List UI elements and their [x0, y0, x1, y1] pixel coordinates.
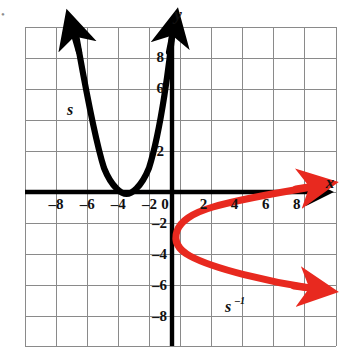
grid-lines	[25, 27, 336, 346]
axes	[25, 30, 316, 346]
y-tick-label-minus-8: –8	[151, 308, 167, 324]
y-tick-label-minus-2: –2	[151, 215, 167, 231]
y-tick-label-minus-6: –6	[151, 277, 168, 293]
y-tick-label-6: 6	[157, 80, 165, 96]
coordinate-plane-svg: x y –8 –6 –4 –2 2 4 6 8 0 8 6 2 –2 –4 –6…	[0, 0, 352, 359]
curve-s-inverse-arrow-lower	[294, 286, 313, 289]
curve-label-s-inverse-exponent: –1	[234, 295, 245, 306]
x-tick-label-8: 8	[293, 196, 301, 212]
x-tick-label-minus-2: –2	[141, 196, 157, 212]
x-tick-label-minus-6: –6	[79, 196, 96, 212]
curve-s-inverse	[176, 187, 312, 288]
y-tick-label-minus-4: –4	[151, 246, 168, 262]
x-axis-label: x	[325, 173, 335, 192]
bullet-marker: •	[1, 8, 5, 20]
curve-label-s-inverse: s –1	[224, 295, 245, 315]
curve-s-arrow-right	[169, 32, 173, 52]
x-tick-label-minus-8: –8	[48, 196, 64, 212]
y-axis-label: y	[172, 5, 182, 24]
y-tick-label-2: 2	[157, 143, 165, 159]
x-tick-label-2: 2	[200, 196, 208, 212]
y-tick-label-8: 8	[157, 49, 165, 65]
graph-figure: x y –8 –6 –4 –2 2 4 6 8 0 8 6 2 –2 –4 –6…	[0, 0, 352, 359]
curve-s-inverse-arrow-upper	[296, 186, 313, 189]
x-tick-label-4: 4	[231, 196, 239, 212]
x-tick-label-minus-4: –4	[110, 196, 127, 212]
origin-label: 0	[161, 196, 169, 212]
x-tick-label-6: 6	[262, 196, 270, 212]
curve-label-s: s	[66, 101, 73, 118]
curve-label-s-inverse-base: s	[224, 298, 231, 315]
